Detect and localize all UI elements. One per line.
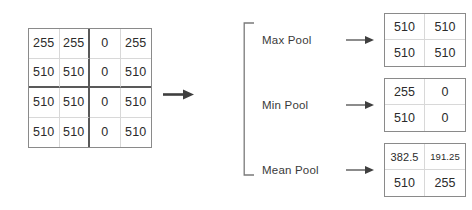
matrix-cell: 510 bbox=[425, 40, 465, 66]
arrow-right-icon bbox=[346, 163, 376, 177]
input-matrix: 255 255 0 255 510 510 0 510 510 510 0 51… bbox=[28, 28, 152, 148]
matrix-cell: 255 bbox=[60, 29, 91, 59]
bracket-right-icon bbox=[240, 22, 256, 176]
matrix-cell: 255 bbox=[121, 29, 152, 59]
matrix-cell: 510 bbox=[121, 88, 152, 118]
matrix-cell: 510 bbox=[29, 88, 60, 118]
matrix-cell: 510 bbox=[121, 59, 152, 89]
matrix-cell: 255 bbox=[385, 79, 425, 105]
matrix-cell: 510 bbox=[60, 118, 91, 148]
matrix-cell: 510 bbox=[425, 14, 465, 40]
matrix-cell: 255 bbox=[29, 29, 60, 59]
output-matrix-mean: 382.5 191.25 510 255 bbox=[384, 143, 466, 197]
matrix-cell: 382.5 bbox=[385, 144, 425, 170]
matrix-cell: 510 bbox=[385, 170, 425, 196]
pool-label-min: Min Pool bbox=[262, 99, 344, 111]
arrow-right-icon bbox=[346, 98, 376, 112]
matrix-cell: 510 bbox=[385, 40, 425, 66]
pool-branch-min: Min Pool 255 0 510 0 bbox=[262, 77, 468, 133]
arrow-right-icon bbox=[346, 33, 376, 47]
matrix-cell: 0 bbox=[90, 88, 121, 118]
matrix-cell: 255 bbox=[425, 170, 465, 196]
output-matrix-max: 510 510 510 510 bbox=[384, 13, 466, 67]
pool-branch-mean: Mean Pool 382.5 191.25 510 255 bbox=[262, 142, 468, 198]
pool-label-max: Max Pool bbox=[262, 34, 344, 46]
matrix-cell: 0 bbox=[90, 118, 121, 148]
output-matrix-min: 255 0 510 0 bbox=[384, 78, 466, 132]
matrix-cell: 510 bbox=[60, 88, 91, 118]
matrix-cell: 510 bbox=[60, 59, 91, 89]
arrow-right-icon bbox=[163, 86, 197, 102]
matrix-cell: 510 bbox=[29, 59, 60, 89]
matrix-cell: 510 bbox=[121, 118, 152, 148]
matrix-cell: 191.25 bbox=[425, 144, 465, 170]
matrix-cell: 510 bbox=[385, 105, 425, 131]
matrix-cell: 0 bbox=[90, 59, 121, 89]
matrix-cell: 0 bbox=[425, 79, 465, 105]
matrix-cell: 0 bbox=[425, 105, 465, 131]
pool-label-mean: Mean Pool bbox=[262, 164, 344, 176]
matrix-cell: 0 bbox=[90, 29, 121, 59]
pool-branch-max: Max Pool 510 510 510 510 bbox=[262, 12, 468, 68]
matrix-cell: 510 bbox=[29, 118, 60, 148]
matrix-cell: 510 bbox=[385, 14, 425, 40]
